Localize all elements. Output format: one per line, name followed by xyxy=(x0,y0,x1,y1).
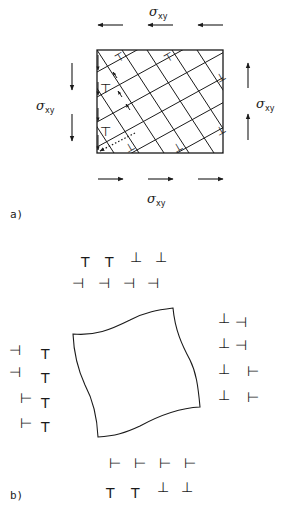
svg-text:⊢: ⊢ xyxy=(20,415,32,431)
svg-text:xy: xy xyxy=(158,12,168,21)
svg-text:T: T xyxy=(40,370,50,386)
dislocation-symbol: ⊤ xyxy=(112,50,127,66)
svg-text:T: T xyxy=(105,485,115,501)
svg-text:⊢: ⊢ xyxy=(159,455,171,471)
svg-text:⊣: ⊣ xyxy=(123,275,135,291)
svg-text:T: T xyxy=(80,254,90,270)
dislocation-symbol: ⊥ xyxy=(213,123,228,139)
svg-text:⊣: ⊣ xyxy=(98,275,110,291)
svg-text:⊢: ⊢ xyxy=(184,455,196,471)
svg-text:⊥: ⊥ xyxy=(155,249,167,265)
svg-text:T: T xyxy=(40,419,50,435)
svg-text:xy: xy xyxy=(265,104,275,113)
svg-text:⊥: ⊥ xyxy=(218,361,230,377)
svg-text:⊣: ⊣ xyxy=(9,342,21,358)
svg-text:⊥: ⊥ xyxy=(130,249,142,265)
svg-text:⊣: ⊣ xyxy=(72,275,84,291)
svg-text:⊢: ⊢ xyxy=(109,455,121,471)
svg-text:⊢: ⊢ xyxy=(134,455,146,471)
svg-text:xy: xy xyxy=(156,199,166,208)
svg-text:⊢: ⊢ xyxy=(20,390,32,406)
svg-text:⊢: ⊢ xyxy=(247,389,259,405)
panel-b-label: b) xyxy=(10,489,23,502)
svg-text:⊥: ⊥ xyxy=(218,335,230,351)
svg-text:⊣: ⊣ xyxy=(147,275,159,291)
panel-a-label: a) xyxy=(10,208,23,221)
right-dislocation-array: ⊥ ⊥ ⊥ ⊥ ⊣ ⊣ ⊢ ⊢ xyxy=(218,310,259,405)
top-stress-label: σ xy xyxy=(149,4,168,21)
right-stress-label: σ xy xyxy=(256,96,275,113)
dislocation-symbol: ⊥ xyxy=(213,70,228,86)
bottom-dislocation-array: ⊢ ⊢ ⊢ ⊢ T T ⊥ ⊥ xyxy=(105,455,196,501)
dislocation-symbol: ⊤ xyxy=(161,50,176,66)
top-dislocation-array: T T ⊥ ⊥ ⊣ ⊣ ⊣ ⊣ xyxy=(72,249,167,291)
left-dislocation-array: ⊣ ⊣ ⊢ ⊢ T T T T xyxy=(9,342,50,435)
svg-text:T: T xyxy=(40,395,50,411)
svg-text:xy: xy xyxy=(45,106,55,115)
crystal-block: ⊤ ⊤ ⊥ ⊤ ⊤ ⊥ ⊥ ⊥ xyxy=(47,0,264,222)
svg-text:⊥: ⊥ xyxy=(157,479,169,495)
svg-text:T: T xyxy=(104,254,114,270)
dislocation-symbol: ⊤ xyxy=(100,81,111,96)
svg-text:T: T xyxy=(130,485,140,501)
bottom-stress-label: σ xy xyxy=(147,191,166,208)
svg-text:⊣: ⊣ xyxy=(9,364,21,380)
panel-b: T T ⊥ ⊥ ⊣ ⊣ ⊣ ⊣ ⊣ ⊣ ⊢ ⊢ T T T T ⊥ ⊥ ⊥ ⊥ xyxy=(9,249,259,502)
svg-text:T: T xyxy=(40,346,50,362)
dislocation-shear-diagram: σ xy σ xy σ xy xyxy=(0,0,282,511)
svg-text:⊥: ⊥ xyxy=(218,387,230,403)
svg-text:⊥: ⊥ xyxy=(218,310,230,326)
left-stress-label: σ xy xyxy=(36,98,55,115)
panel-a: σ xy σ xy σ xy xyxy=(10,0,275,222)
svg-text:⊥: ⊥ xyxy=(181,479,193,495)
dislocation-marks-a: ⊤ ⊤ ⊥ ⊤ ⊤ ⊥ ⊥ ⊥ xyxy=(100,50,228,156)
dislocation-symbol: ⊤ xyxy=(100,124,111,139)
svg-text:⊣: ⊣ xyxy=(235,314,247,330)
sheared-crystal-outline xyxy=(73,308,200,437)
svg-text:⊣: ⊣ xyxy=(235,337,247,353)
svg-text:⊢: ⊢ xyxy=(247,363,259,379)
